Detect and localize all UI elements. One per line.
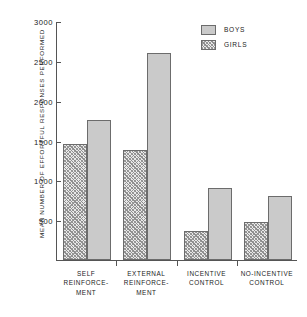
x-axis-label-line: NO-INCENTIVE [237,269,297,278]
chart-legend: BOYSGIRLS [201,24,247,54]
x-axis-label-2: EXTERNALREINFORCE-MENT [116,269,176,297]
x-axis-label-line: CONTROL [237,278,297,287]
bar-boys-group-1 [87,120,111,260]
y-axis-tick-label: 3000 [0,18,53,27]
x-axis-label-line: MENT [116,288,176,297]
x-axis-label-4: NO-INCENTIVECONTROL [237,269,297,288]
x-axis-label-line: REINFORCE- [116,278,176,287]
legend-swatch-boys [201,25,216,35]
legend-swatch-girls [201,40,216,50]
y-axis-tick-label: 500 [0,217,53,226]
bar-girls-group-3 [184,231,208,260]
x-axis-label-line: CONTROL [177,278,237,287]
plot-area [56,22,297,261]
x-axis-separator [116,261,117,266]
x-axis-label-line: REINFORCE- [56,278,116,287]
bar-chart: MEAN NUMBER OF EFFORTFUL RESPONSES PERFO… [0,0,307,317]
bar-boys-group-4 [268,196,292,260]
x-axis-label-1: SELFREINFORCE-MENT [56,269,116,297]
y-axis-tick-label: 1500 [0,137,53,146]
legend-label: GIRLS [224,41,247,48]
bar-boys-group-2 [147,53,171,260]
x-axis-label-3: INCENTIVECONTROL [177,269,237,288]
legend-label: BOYS [224,26,245,33]
x-axis-label-line: EXTERNAL [116,269,176,278]
legend-item-girls: GIRLS [201,39,247,50]
x-axis-label-line: INCENTIVE [177,269,237,278]
y-axis-tick-label: 1000 [0,177,53,186]
bar-girls-group-1 [63,144,87,260]
x-axis-label-line: SELF [56,269,116,278]
legend-item-boys: BOYS [201,24,247,35]
x-axis-label-line: MENT [56,288,116,297]
x-axis-separator [237,261,238,266]
y-axis-tick-label: 2500 [0,57,53,66]
bar-girls-group-2 [123,150,147,260]
bar-boys-group-3 [208,188,232,260]
x-axis-separator [177,261,178,266]
bar-girls-group-4 [244,222,268,260]
y-axis-tick-label: 2000 [0,97,53,106]
